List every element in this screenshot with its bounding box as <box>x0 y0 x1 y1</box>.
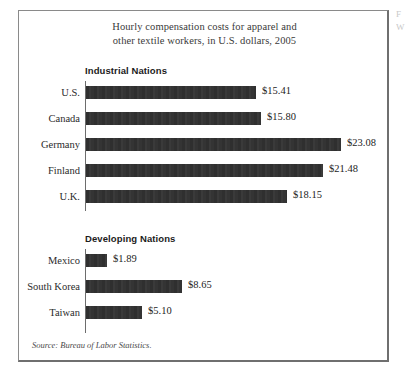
bar-row: Mexico$1.89 <box>19 249 390 275</box>
section-heading-developing-nations: Developing Nations <box>85 233 175 244</box>
bar-fill <box>86 280 182 293</box>
bar-fill <box>86 164 323 177</box>
source-note: Source: Bureau of Labor Statistics. <box>32 340 152 350</box>
bar-category-label: U.K. <box>0 191 80 202</box>
bar-fill <box>86 306 142 319</box>
chart-title-line-2: other textile workers, in U.S. dollars, … <box>19 34 390 48</box>
bar-group-developing: Mexico$1.89South Korea$8.65Taiwan$5.10 <box>19 249 390 327</box>
page-margin-text-line: F <box>396 8 409 21</box>
page-margin-text: FW <box>396 8 409 34</box>
bar-fill <box>86 190 287 203</box>
bar-value-label: $21.48 <box>329 163 358 174</box>
bar-value-label: $15.80 <box>267 111 296 122</box>
bar-track <box>86 86 256 99</box>
bar-track <box>86 164 323 177</box>
bar-row: Taiwan$5.10 <box>19 301 390 327</box>
section-heading-industrial-nations: Industrial Nations <box>85 65 167 76</box>
bar-value-label: $8.65 <box>188 279 212 290</box>
bar-category-label: Canada <box>0 113 80 124</box>
bar-value-label: $1.89 <box>113 253 137 264</box>
bar-category-label: U.S. <box>0 87 80 98</box>
bar-row: U.S.$15.41 <box>19 81 390 107</box>
bar-track <box>86 254 107 267</box>
bar-value-label: $23.08 <box>347 137 376 148</box>
page-margin-text-line: W <box>396 21 409 34</box>
bar-value-label: $5.10 <box>148 305 172 316</box>
bar-category-label: Finland <box>0 165 80 176</box>
bar-group-industrial: U.S.$15.41Canada$15.80Germany$23.08Finla… <box>19 81 390 211</box>
bar-fill <box>86 112 261 125</box>
bar-row: Germany$23.08 <box>19 133 390 159</box>
bar-track <box>86 280 182 293</box>
chart-title: Hourly compensation costs for apparel an… <box>19 20 390 47</box>
bar-track <box>86 138 341 151</box>
bar-value-label: $15.41 <box>262 85 291 96</box>
bar-category-label: Mexico <box>0 255 80 266</box>
bar-track <box>86 306 142 319</box>
chart-frame: Hourly compensation costs for apparel an… <box>18 10 389 362</box>
bar-track <box>86 112 261 125</box>
bar-fill <box>86 254 107 267</box>
bar-category-label: Taiwan <box>0 307 80 318</box>
bar-track <box>86 190 287 203</box>
bar-row: Canada$15.80 <box>19 107 390 133</box>
bar-row: Finland$21.48 <box>19 159 390 185</box>
bar-row: U.K.$18.15 <box>19 185 390 211</box>
chart-title-line-1: Hourly compensation costs for apparel an… <box>19 20 390 34</box>
bar-fill <box>86 138 341 151</box>
bar-fill <box>86 86 256 99</box>
bar-value-label: $18.15 <box>293 189 322 200</box>
bar-category-label: South Korea <box>0 281 80 292</box>
bar-row: South Korea$8.65 <box>19 275 390 301</box>
bar-category-label: Germany <box>0 139 80 150</box>
